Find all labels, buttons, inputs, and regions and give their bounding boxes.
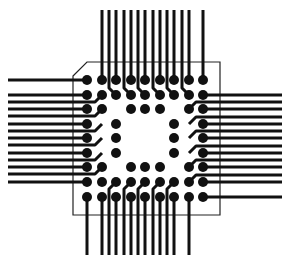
solder-pad — [140, 162, 150, 172]
solder-pad — [82, 119, 92, 129]
solder-pad — [111, 119, 121, 129]
solder-pad — [140, 177, 150, 187]
solder-pad — [111, 192, 121, 202]
solder-pad — [82, 177, 92, 187]
solder-pad — [97, 104, 107, 114]
solder-pad — [140, 90, 150, 100]
solder-pad — [198, 104, 208, 114]
solder-pad — [169, 133, 179, 143]
solder-pad — [184, 104, 194, 114]
solder-pad — [169, 119, 179, 129]
solder-pad — [82, 75, 92, 85]
solder-pad — [140, 75, 150, 85]
solder-pad — [184, 177, 194, 187]
solder-pad — [97, 75, 107, 85]
solder-pad — [126, 90, 136, 100]
solder-pad — [126, 192, 136, 202]
solder-pad — [82, 162, 92, 172]
solder-pad — [82, 104, 92, 114]
bga-fanout-diagram — [0, 0, 290, 263]
solder-pad — [184, 90, 194, 100]
solder-pad — [198, 75, 208, 85]
solder-pad — [184, 162, 194, 172]
solder-pad — [198, 90, 208, 100]
solder-pad — [82, 148, 92, 158]
solder-pad — [169, 148, 179, 158]
solder-pad — [97, 192, 107, 202]
solder-pad — [111, 133, 121, 143]
solder-pad — [198, 133, 208, 143]
solder-pad — [169, 177, 179, 187]
solder-pad — [82, 192, 92, 202]
solder-pad — [169, 75, 179, 85]
solder-pad — [184, 192, 194, 202]
solder-pad — [155, 192, 165, 202]
solder-pad — [126, 104, 136, 114]
solder-pad — [198, 192, 208, 202]
solder-pad — [111, 148, 121, 158]
solder-pad — [155, 90, 165, 100]
solder-pad — [97, 162, 107, 172]
solder-pad — [155, 162, 165, 172]
solder-pad — [155, 75, 165, 85]
solder-pad — [198, 148, 208, 158]
solder-pad — [169, 192, 179, 202]
trace-layer — [8, 10, 282, 255]
solder-pad — [155, 177, 165, 187]
solder-pad — [169, 90, 179, 100]
solder-pad — [198, 162, 208, 172]
package-outline-path — [73, 62, 220, 215]
solder-pad — [111, 75, 121, 85]
solder-pad — [82, 133, 92, 143]
package-outline — [73, 62, 220, 215]
solder-pad — [140, 104, 150, 114]
solder-pad — [111, 90, 121, 100]
solder-pad — [198, 119, 208, 129]
solder-pad — [111, 177, 121, 187]
solder-pad — [97, 177, 107, 187]
solder-pad — [198, 177, 208, 187]
solder-pad — [126, 177, 136, 187]
solder-pad — [126, 75, 136, 85]
solder-pad — [184, 75, 194, 85]
solder-pad — [155, 104, 165, 114]
solder-pad — [126, 162, 136, 172]
solder-pad — [82, 90, 92, 100]
solder-pad — [97, 90, 107, 100]
solder-pad — [140, 192, 150, 202]
